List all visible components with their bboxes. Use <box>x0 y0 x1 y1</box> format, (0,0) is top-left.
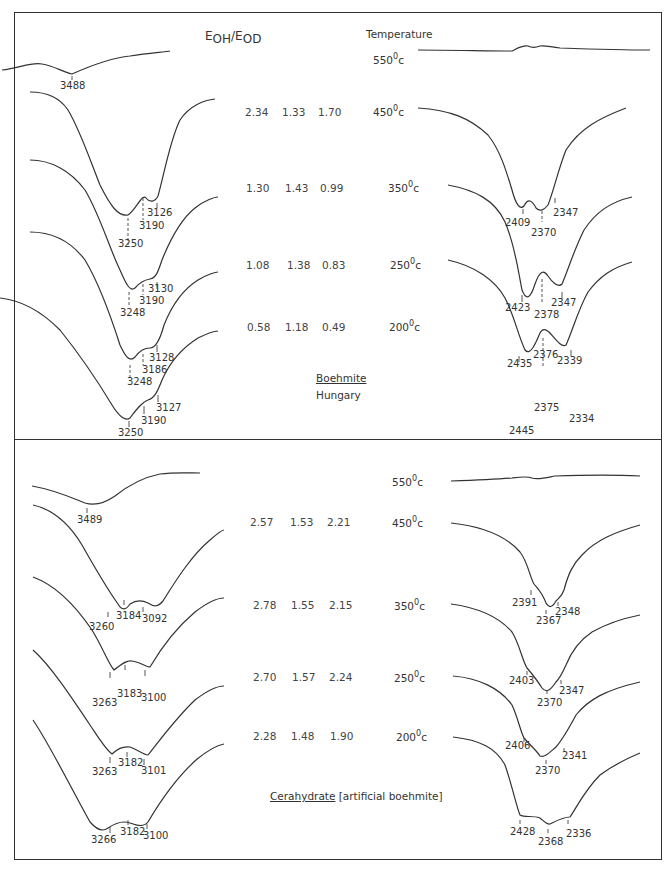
peak-label: 3130 <box>148 283 173 294</box>
peak-label: 3250 <box>118 427 143 438</box>
ratio-e2: E <box>235 29 243 43</box>
temp-unit: c <box>398 106 404 118</box>
peak-label: 3128 <box>149 352 174 363</box>
peak-label: 2348 <box>555 606 580 617</box>
peak-label: 3248 <box>120 307 145 318</box>
peak-label: 3127 <box>156 402 181 413</box>
peak-label: 3190 <box>141 415 166 426</box>
peak-label: 2370 <box>531 227 556 238</box>
curve-oh-200 <box>33 720 224 830</box>
peak-label: 2435 <box>507 358 532 369</box>
peak-label: 2406 <box>505 740 530 751</box>
ratio-value: 0.49 <box>322 321 345 333</box>
curve-od-550 <box>418 46 650 51</box>
temp-unit: c <box>415 259 421 271</box>
peak-label: 3182 <box>118 757 143 768</box>
ratio-value: 1.48 <box>291 730 314 742</box>
ratio-e1: E <box>205 29 213 43</box>
ratio-value: 2.15 <box>329 599 352 611</box>
ratio-value: 1.30 <box>246 182 269 194</box>
sample-origin: [artificial boehmite] <box>339 790 443 802</box>
ratio-value: 1.57 <box>292 671 315 683</box>
temp-value: 250 <box>390 259 410 271</box>
ratio-value: 1.53 <box>290 516 313 528</box>
temp-value: 350 <box>388 182 408 194</box>
temp-unit: c <box>421 731 427 743</box>
ratio-value: 2.34 <box>245 106 268 118</box>
temp-label: 2000c <box>396 729 427 743</box>
peak-label: 3101 <box>141 765 166 776</box>
peak-label: 2409 <box>505 217 530 228</box>
peak-label: 2445 <box>509 425 534 436</box>
boehmite-oh-spectra <box>0 51 218 427</box>
peak-label: 3489 <box>77 514 102 525</box>
peak-label: 2378 <box>534 309 559 320</box>
ratio-value: 1.70 <box>318 106 341 118</box>
curve-oh-250 <box>33 650 224 755</box>
ratio-value: 1.55 <box>291 599 314 611</box>
curve-oh-450 <box>33 505 224 609</box>
temp-unit: c <box>413 182 419 194</box>
temp-unit: c <box>414 321 420 333</box>
sample-name: Cerahydrate <box>270 790 335 802</box>
peak-label: 3100 <box>143 830 168 841</box>
temp-value: 350 <box>394 600 414 612</box>
ratio-value: 1.08 <box>246 259 269 271</box>
curve-oh-550 <box>2 51 170 74</box>
peak-label: 2403 <box>509 675 534 686</box>
temp-unit: c <box>419 600 425 612</box>
temperature-column-title: Temperature <box>366 28 433 40</box>
peak-label: 2370 <box>535 765 560 776</box>
peak-label: 3488 <box>60 80 85 91</box>
ratio-value: 2.70 <box>253 671 276 683</box>
peak-label: 2423 <box>505 302 530 313</box>
ratio-value: 1.90 <box>330 730 353 742</box>
curve-oh-350 <box>33 577 224 670</box>
curve-oh-450 <box>30 92 215 215</box>
peak-label: 3263 <box>92 697 117 708</box>
ratio-value: 0.99 <box>320 182 343 194</box>
peak-label: 2339 <box>557 355 582 366</box>
peak-label: 3248 <box>127 376 152 387</box>
temp-unit: c <box>417 517 423 529</box>
peak-label: 3266 <box>91 834 116 845</box>
temp-label: 3500c <box>388 180 419 194</box>
curve-oh-250 <box>30 232 218 359</box>
curve-od-200 <box>453 737 640 824</box>
peak-label: 2341 <box>562 750 587 761</box>
ratio-value: 0.83 <box>322 259 345 271</box>
peak-label: 2391 <box>512 597 537 608</box>
temp-label: 4500c <box>373 104 404 118</box>
temp-value: 550 <box>392 476 412 488</box>
curve-od-250 <box>453 676 640 756</box>
temp-label: 3500c <box>394 598 425 612</box>
temp-label: 5500c <box>392 474 423 488</box>
peak-label: 2347 <box>551 297 576 308</box>
temp-value: 550 <box>373 54 393 66</box>
temp-label: 2500c <box>394 670 425 684</box>
temp-value: 250 <box>394 672 414 684</box>
peak-label: 2428 <box>510 826 535 837</box>
ratio-value: 2.78 <box>253 599 276 611</box>
temp-unit: c <box>398 54 404 66</box>
peak-label: 3260 <box>89 621 114 632</box>
peak-label: 3183 <box>117 688 142 699</box>
curve-oh-200 <box>0 298 218 419</box>
peak-label: 2336 <box>566 828 591 839</box>
peak-label: 3100 <box>141 692 166 703</box>
peak-label: 2347 <box>553 207 578 218</box>
temp-label: 2000c <box>389 319 420 333</box>
peak-label: 3250 <box>118 238 143 249</box>
curve-oh-550 <box>32 473 200 504</box>
ratio-sub-od: OD <box>243 32 262 46</box>
curve-od-450 <box>451 523 640 607</box>
sample-name: Boehmite <box>316 372 366 384</box>
peak-label: 2347 <box>559 685 584 696</box>
peak-label: 2375 <box>534 402 559 413</box>
temp-value: 200 <box>396 731 416 743</box>
peak-label: 3092 <box>142 613 167 624</box>
ratio-value: 1.38 <box>287 259 310 271</box>
spectra-plot <box>0 0 668 873</box>
temp-value: 450 <box>373 106 393 118</box>
temp-label: 4500c <box>392 515 423 529</box>
